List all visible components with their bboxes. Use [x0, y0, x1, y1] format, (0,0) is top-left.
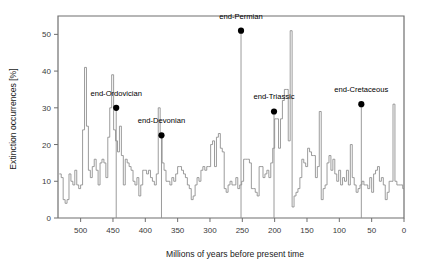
- extinction-event-label: end-Devonian: [138, 116, 185, 125]
- x-axis-label: Millions of years before present time: [166, 249, 304, 259]
- x-tick-label: 150: [300, 226, 314, 235]
- x-tick-label: 450: [106, 226, 120, 235]
- y-axis-label: Extinction occurrences [%]: [8, 68, 18, 169]
- x-tick-label: 250: [236, 226, 250, 235]
- chart-canvas: 500450400350300250200150100500 010203040…: [0, 0, 425, 265]
- x-axis-ticks: 500450400350300250200150100500: [74, 218, 407, 235]
- y-tick-label: 0: [47, 214, 52, 223]
- x-tick-label: 50: [367, 226, 376, 235]
- y-tick-label: 40: [42, 67, 51, 76]
- x-tick-label: 100: [333, 226, 347, 235]
- extinction-series-line: [59, 31, 404, 207]
- x-tick-label: 350: [171, 226, 185, 235]
- extinction-event-marker: [271, 108, 277, 114]
- extinction-event-marker: [113, 105, 119, 111]
- y-tick-label: 20: [42, 141, 51, 150]
- x-tick-label: 200: [268, 226, 282, 235]
- extinction-event-marker: [358, 101, 364, 107]
- extinction-event-marker: [238, 28, 244, 34]
- extinction-event-label: end-Permian: [219, 12, 262, 21]
- y-tick-label: 10: [42, 177, 51, 186]
- x-tick-label: 400: [139, 226, 153, 235]
- extinction-event-label: end-Triassic: [253, 92, 294, 101]
- extinction-chart-figure: 500450400350300250200150100500 010203040…: [0, 0, 425, 265]
- x-tick-label: 0: [402, 226, 407, 235]
- x-tick-label: 500: [74, 226, 88, 235]
- extinction-event-label: end-Ordovician: [90, 89, 142, 98]
- extinction-step-line: [59, 31, 404, 207]
- y-tick-label: 50: [42, 30, 51, 39]
- x-tick-label: 300: [203, 226, 217, 235]
- y-tick-label: 30: [42, 104, 51, 113]
- extinction-event-marker: [158, 132, 164, 138]
- extinction-event-label: end-Cretaceous: [334, 85, 388, 94]
- y-axis-ticks: 01020304050: [42, 30, 58, 223]
